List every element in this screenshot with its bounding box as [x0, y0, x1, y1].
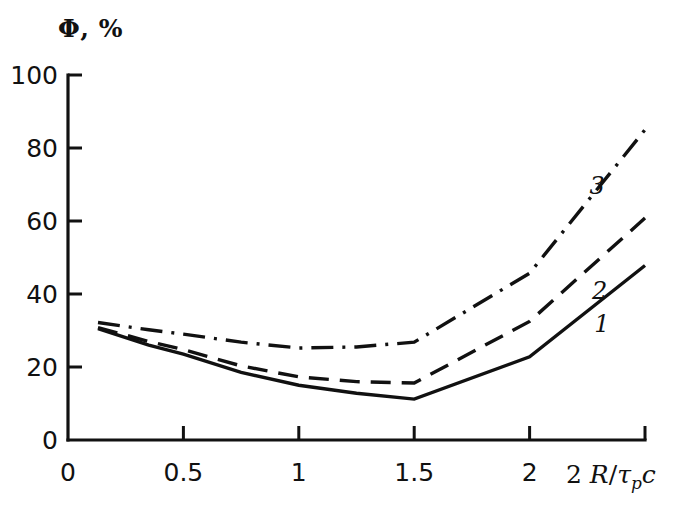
- data-curves: [98, 130, 645, 399]
- curve-1: [98, 266, 645, 400]
- y-tick-label: 20: [26, 355, 58, 380]
- y-axis-title: Φ, %: [58, 14, 123, 43]
- curve-label-1: 1: [594, 312, 609, 336]
- y-tick-label: 80: [26, 136, 58, 161]
- y-tick-label: 60: [26, 209, 58, 234]
- x-axis-title: 2 R/τpc: [566, 462, 656, 492]
- y-tick-label: 40: [26, 282, 58, 307]
- x-tick-label: 1: [291, 460, 307, 485]
- curve-2: [98, 218, 645, 383]
- x-tick-label: 2: [522, 460, 538, 485]
- plot-canvas: [0, 0, 687, 510]
- x-axis-title-lead: 2: [566, 460, 582, 489]
- x-tick-label: 0: [60, 460, 76, 485]
- x-tick-label: 0.5: [164, 460, 204, 485]
- y-axis-ticks: [68, 75, 82, 367]
- x-axis-title-trailing: c: [642, 460, 656, 489]
- x-tick-label: 1.5: [394, 460, 434, 485]
- axes: [68, 75, 645, 440]
- y-tick-label: 100: [10, 63, 58, 88]
- curve-label-3: 3: [590, 174, 605, 198]
- curve-3: [98, 130, 645, 348]
- y-tick-label: 0: [42, 428, 58, 453]
- x-axis-ticks: [183, 426, 645, 440]
- x-axis-title-numerator: R: [590, 460, 609, 489]
- chart-figure: Φ, % 2 R/τpc 02040608010000.511.52 123: [0, 0, 687, 510]
- x-axis-title-subscript: p: [631, 473, 642, 493]
- curve-label-2: 2: [592, 279, 607, 303]
- x-axis-title-slash: /: [609, 460, 617, 489]
- x-axis-title-tau: τ: [617, 460, 631, 489]
